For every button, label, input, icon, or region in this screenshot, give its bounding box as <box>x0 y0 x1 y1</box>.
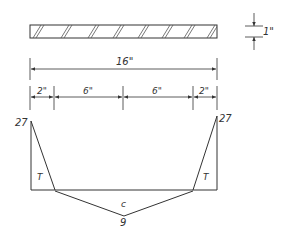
depth-label: 1" <box>263 26 274 37</box>
right-peak-value: 27 <box>219 113 232 124</box>
segment-label-3: 6" <box>152 86 162 96</box>
beam-section <box>30 25 218 38</box>
right-tension-label: T <box>203 172 210 182</box>
segment-label-2: 6" <box>83 86 93 96</box>
compression-label: c <box>121 199 126 209</box>
left-peak-value: 27 <box>15 117 28 128</box>
center-value: 9 <box>120 217 126 228</box>
hatching <box>33 25 218 38</box>
depth-dimension <box>245 13 263 50</box>
length-label: 16" <box>116 56 133 67</box>
segment-label-4: 2" <box>199 86 209 96</box>
segment-label-1: 2" <box>37 86 47 96</box>
beam-stress-diagram: 1" 16" 2" 6" 6" 2" 27 27 T T c 9 <box>0 0 285 234</box>
left-tension-label: T <box>37 172 44 182</box>
segment-dimensions <box>30 86 217 110</box>
left-tension-slope <box>31 121 55 190</box>
